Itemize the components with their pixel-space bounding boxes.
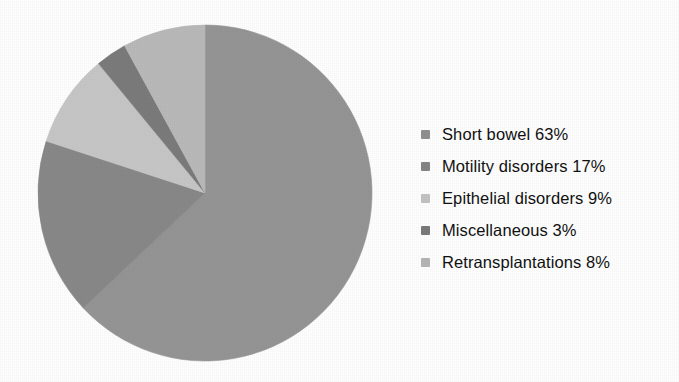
- legend-swatch-icon: [421, 130, 430, 139]
- legend-swatch-icon: [421, 194, 430, 203]
- chart-legend: Short bowel 63% Motility disorders 17% E…: [421, 118, 671, 278]
- legend-swatch-icon: [421, 162, 430, 171]
- pie-slice-group: [38, 25, 372, 361]
- legend-item-epithelial-disorders[interactable]: Epithelial disorders 9%: [421, 182, 671, 214]
- legend-item-label: Miscellaneous 3%: [442, 222, 577, 239]
- pie-chart-figure: Short bowel 63% Motility disorders 17% E…: [0, 0, 679, 382]
- legend-item-motility-disorders[interactable]: Motility disorders 17%: [421, 150, 671, 182]
- legend-item-label: Epithelial disorders 9%: [442, 190, 612, 207]
- legend-item-label: Short bowel 63%: [442, 126, 568, 143]
- legend-swatch-icon: [421, 258, 430, 267]
- legend-swatch-icon: [421, 226, 430, 235]
- pie-chart: [0, 0, 400, 382]
- legend-item-short-bowel[interactable]: Short bowel 63%: [421, 118, 671, 150]
- legend-item-label: Retransplantations 8%: [442, 254, 610, 271]
- pie-svg: [0, 0, 400, 382]
- legend-item-miscellaneous[interactable]: Miscellaneous 3%: [421, 214, 671, 246]
- legend-item-label: Motility disorders 17%: [442, 158, 606, 175]
- legend-item-retransplantations[interactable]: Retransplantations 8%: [421, 246, 671, 278]
